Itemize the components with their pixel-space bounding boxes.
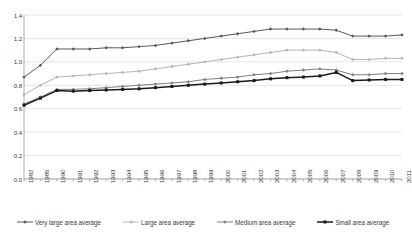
data-point [88,47,91,50]
data-point [351,58,354,61]
y-axis-label: 0.6 [0,105,22,112]
x-axis-label: 1991 [76,170,83,183]
data-point [384,34,387,37]
data-point [137,45,140,48]
data-point [351,73,354,76]
legend-item[interactable]: Large area average [123,218,195,226]
data-point [367,73,370,76]
data-point [302,27,305,30]
x-axis-label: 2003 [273,170,280,183]
legend-label: Medium area average [235,219,295,226]
data-point [220,34,223,37]
data-point [302,68,305,71]
data-point [121,71,124,74]
data-point [170,85,173,88]
data-point [335,51,338,54]
data-point [285,48,288,51]
x-axis-label: 1990 [59,170,66,183]
data-point [236,32,239,35]
data-point [252,53,255,56]
data-point [401,78,404,81]
data-point [137,70,140,73]
x-axis-label: 2004 [290,170,297,183]
data-point [154,44,157,47]
y-axis-label: 0.2 [0,152,22,159]
y-axis-label: 1.2 [0,35,22,42]
x-axis-label: 1994 [125,170,132,183]
data-point [187,84,190,87]
data-point [23,104,26,107]
data-point [170,41,173,44]
data-point [105,88,108,91]
data-point [269,27,272,30]
data-point [367,58,370,61]
data-point [203,60,206,63]
x-axis-label: 2011 [405,170,412,183]
data-point [104,72,107,75]
data-point [351,79,354,82]
data-point [203,78,206,81]
data-point [351,34,354,37]
data-point [236,80,239,83]
x-axis-label: 1982 [27,170,34,183]
legend-item[interactable]: Very large area average [17,218,101,226]
data-point [335,71,338,74]
data-point [302,48,305,51]
data-point [318,27,321,30]
data-point [400,57,403,60]
data-point [154,86,157,89]
x-axis-label: 2006 [322,170,329,183]
legend-diamond-marker-icon [123,218,139,226]
legend-square-marker-icon [317,218,333,226]
data-point [55,89,58,92]
data-point [39,97,42,100]
data-point [285,27,288,30]
data-point [121,46,124,49]
y-axis-label: 0.8 [0,82,22,89]
x-axis-label: 2007 [339,170,346,183]
data-point [138,87,141,90]
series-line-2 [24,69,402,104]
data-point [203,37,206,40]
data-point [187,80,190,83]
data-point [384,78,387,81]
data-point [170,65,173,68]
data-point [137,84,140,87]
legend-item[interactable]: Small area average [317,218,389,226]
data-point [72,90,75,93]
data-point [121,88,124,91]
data-point [302,76,305,79]
x-axis-label: 1998 [191,170,198,183]
x-axis-label: 2002 [257,170,264,183]
data-point [318,74,321,77]
x-axis-label: 2008 [355,170,362,183]
data-point [187,63,190,66]
data-point [368,79,371,82]
y-axis-label: 1.0 [0,58,22,65]
data-point [88,89,91,92]
legend-item[interactable]: Medium area average [217,218,295,226]
legend-label: Small area average [335,219,389,226]
data-point [220,81,223,84]
data-point [269,72,272,75]
data-point [367,34,370,37]
x-axis-label: 1997 [175,170,182,183]
y-axis-label: 1.4 [0,12,22,19]
data-point [170,81,173,84]
y-axis-label: 0.0 [0,176,22,183]
series-line-0 [24,29,402,77]
data-point [236,75,239,78]
data-point [384,57,387,60]
data-point [220,58,223,61]
data-point [220,77,223,80]
data-point [104,46,107,49]
data-point [285,76,288,79]
data-point [72,47,75,50]
x-axis-label: 2001 [240,170,247,183]
data-point [269,51,272,54]
x-axis-label: 2009 [372,170,379,183]
data-point [400,33,403,36]
data-point [318,48,321,51]
